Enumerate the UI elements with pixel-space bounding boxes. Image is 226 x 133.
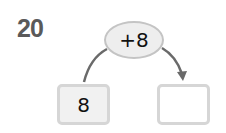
left-arc (84, 49, 107, 82)
arrowhead-icon (177, 71, 187, 81)
input-box: 8 (57, 84, 110, 125)
problem-number: 20 (17, 14, 43, 43)
answer-box[interactable] (157, 84, 210, 125)
operation-oval: +8 (104, 21, 164, 59)
right-arc (162, 48, 182, 74)
